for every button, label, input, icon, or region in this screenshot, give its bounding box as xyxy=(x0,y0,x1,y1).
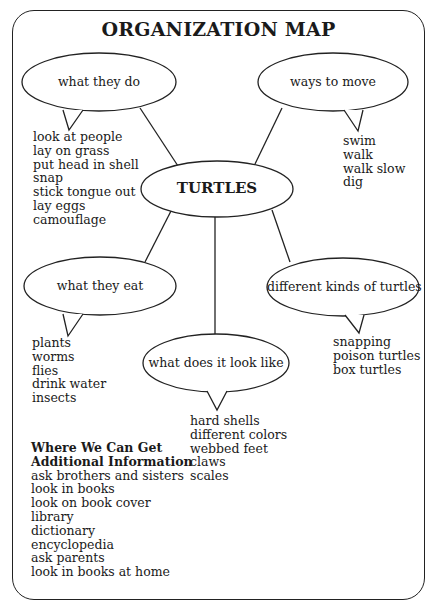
list-ways-to-move: swim walk walk slow dig xyxy=(343,134,405,189)
list-item: box turtles xyxy=(333,363,420,377)
list-item: hard shells xyxy=(190,414,287,428)
node-label-different-kinds: different kinds of turtles xyxy=(267,279,419,294)
list-item: put head in shell xyxy=(33,158,139,172)
list-item: dig xyxy=(343,175,405,189)
tail-what-they-do xyxy=(63,110,83,130)
node-label-what-they-eat: what they eat xyxy=(24,278,176,293)
list-item: ask brothers and sisters xyxy=(31,469,193,483)
list-what-they-do: look at people lay on grass put head in … xyxy=(33,130,139,227)
tail-look-like xyxy=(207,391,227,410)
tail-ways-to-move xyxy=(344,110,363,131)
list-different-kinds: snapping poison turtles box turtles xyxy=(333,335,420,376)
page-title: ORGANIZATION MAP xyxy=(0,18,437,40)
list-item: scales xyxy=(190,469,287,483)
list-item: look in books at home xyxy=(31,565,193,579)
center-node-label: TURTLES xyxy=(141,179,293,197)
additional-info-section: Where We Can Get Additional Information … xyxy=(31,441,193,579)
list-item: flies xyxy=(32,364,106,378)
list-item: look in books xyxy=(31,482,193,496)
list-item: swim xyxy=(343,134,405,148)
list-item: different colors xyxy=(190,428,287,442)
tail-different-kinds xyxy=(345,315,364,333)
list-item: look at people xyxy=(33,130,139,144)
node-label-what-they-do: what they do xyxy=(22,74,176,89)
list-item: encyclopedia xyxy=(31,538,193,552)
node-label-ways-to-move: ways to move xyxy=(258,74,408,89)
list-item: lay eggs xyxy=(33,199,139,213)
node-label-look-like: what does it look like xyxy=(143,355,289,370)
list-item: dictionary xyxy=(31,524,193,538)
connector-what-they-do xyxy=(140,108,178,166)
list-item: ask parents xyxy=(31,551,193,565)
list-item: walk slow xyxy=(343,162,405,176)
tail-what-they-eat xyxy=(63,314,83,336)
list-item: snap xyxy=(33,171,139,185)
connector-ways-to-move xyxy=(255,108,282,164)
connector-what-they-eat xyxy=(145,211,171,262)
list-item: look on book cover xyxy=(31,496,193,510)
list-item: library xyxy=(31,510,193,524)
list-item: webbed feet xyxy=(190,442,287,456)
list-item: claws xyxy=(190,455,287,469)
info-heading-line1: Where We Can Get xyxy=(31,441,193,455)
list-item: worms xyxy=(32,350,106,364)
connector-different-kinds xyxy=(272,210,290,262)
list-what-they-eat: plants worms flies drink water insects xyxy=(32,336,106,405)
list-item: drink water xyxy=(32,377,106,391)
list-item: walk xyxy=(343,148,405,162)
info-heading-line2: Additional Information xyxy=(31,455,193,469)
list-item: stick tongue out xyxy=(33,185,139,199)
list-look-like: hard shells different colors webbed feet… xyxy=(190,414,287,483)
list-item: insects xyxy=(32,391,106,405)
list-item: lay on grass xyxy=(33,144,139,158)
list-item: snapping xyxy=(333,335,420,349)
list-item: camouflage xyxy=(33,213,139,227)
list-item: poison turtles xyxy=(333,349,420,363)
list-item: plants xyxy=(32,336,106,350)
